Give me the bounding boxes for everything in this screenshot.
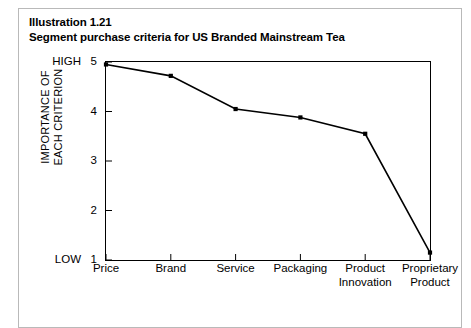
x-axis-ticks bbox=[106, 254, 430, 260]
x-axis-label: ProductInnovation bbox=[339, 262, 392, 289]
data-series-line bbox=[106, 64, 430, 252]
y-axis-high-label: HIGH bbox=[52, 55, 81, 67]
x-axis-label-line: Brand bbox=[155, 262, 186, 276]
y-tick-label-4: 4 bbox=[91, 105, 97, 117]
x-axis-label: Service bbox=[216, 262, 254, 276]
data-point-marker bbox=[363, 132, 367, 136]
illustration-figure: Illustration 1.21 Segment purchase crite… bbox=[18, 8, 462, 328]
y-axis-ticks bbox=[106, 62, 112, 260]
data-point-marker bbox=[234, 107, 238, 111]
x-axis-label-line: Proprietary bbox=[402, 262, 458, 276]
y-axis-labels: HIGH 5 4 3 2 LOW 1 bbox=[19, 61, 101, 259]
data-point-markers bbox=[104, 62, 432, 254]
x-axis-label: ProprietaryProduct bbox=[402, 262, 458, 289]
data-point-marker bbox=[428, 250, 432, 254]
line-chart-svg bbox=[106, 62, 430, 260]
x-axis-label-line: Price bbox=[93, 262, 119, 276]
data-point-marker bbox=[169, 74, 173, 78]
x-axis-label: Price bbox=[93, 262, 119, 276]
x-axis-label: Packaging bbox=[274, 262, 328, 276]
x-axis-label-line: Innovation bbox=[339, 276, 392, 290]
figure-title: Segment purchase criteria for US Branded… bbox=[29, 30, 449, 45]
y-tick-label-2: 2 bbox=[91, 204, 97, 216]
x-axis-label-line: Product bbox=[339, 262, 392, 276]
illustration-number: Illustration 1.21 bbox=[29, 15, 449, 30]
x-axis-label-line: Packaging bbox=[274, 262, 328, 276]
data-point-marker bbox=[298, 115, 302, 119]
x-axis-label-line: Service bbox=[216, 262, 254, 276]
x-axis-label-line: Product bbox=[402, 276, 458, 290]
x-axis-label: Brand bbox=[155, 262, 186, 276]
y-tick-label-5: 5 bbox=[91, 55, 97, 67]
plot-area bbox=[105, 61, 431, 261]
y-tick-label-3: 3 bbox=[91, 154, 97, 166]
data-point-marker bbox=[104, 62, 108, 66]
figure-title-block: Illustration 1.21 Segment purchase crite… bbox=[29, 15, 449, 45]
x-axis-labels: PriceBrandServicePackagingProductInnovat… bbox=[19, 262, 463, 302]
